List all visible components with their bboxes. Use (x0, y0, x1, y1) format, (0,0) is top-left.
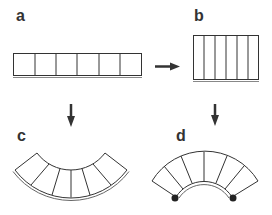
arrow-right-icon (155, 63, 180, 71)
panel-d-curved-strip (152, 151, 258, 198)
panel-c-curved-strip (13, 153, 129, 201)
anchor-point-icon (230, 195, 237, 202)
diagram-canvas (0, 0, 272, 215)
anchor-point-icon (172, 195, 179, 202)
panel-b-strip (193, 36, 259, 82)
panel-a-strip (13, 54, 142, 78)
arrow-down-icon (67, 104, 75, 127)
arrow-down-icon (211, 104, 219, 126)
